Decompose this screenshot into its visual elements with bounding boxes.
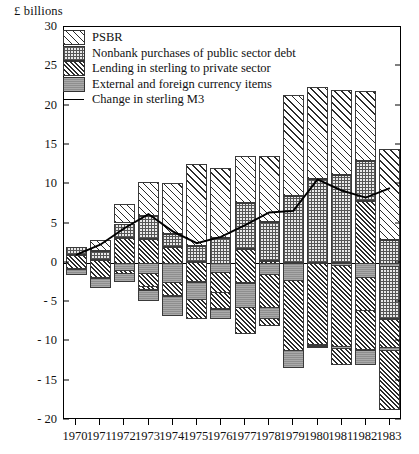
x-axis-tick-mark <box>268 419 269 425</box>
y-axis-tick-label: 25 <box>45 58 58 73</box>
x-axis-tick-mark <box>317 419 318 425</box>
y-axis-tick-mark <box>63 261 69 262</box>
y-axis-tick-mark-right <box>395 183 401 184</box>
x-axis-tick-mark <box>172 419 173 425</box>
x-axis-tick-mark <box>244 419 245 425</box>
y-axis-tick-mark <box>63 301 69 302</box>
x-axis-tick-mark <box>292 419 293 425</box>
y-axis-labels: 302520151050- 5- 10- 15- 20 <box>0 0 57 454</box>
y-axis-tick-mark-right <box>395 419 401 420</box>
x-axis-tick-label: 1983 <box>376 429 401 444</box>
legend-item-label: Lending in sterling to private sector <box>92 61 271 76</box>
legend-item-label: PSBR <box>92 30 123 45</box>
x-axis-tick-label: 1982 <box>352 429 377 444</box>
y-axis-tick-mark-right <box>395 301 401 302</box>
y-axis-tick-label: - 5 <box>43 294 57 309</box>
y-axis-tick-label: - 20 <box>37 412 57 427</box>
y-axis-tick-label: 0 <box>51 254 57 269</box>
x-axis-tick-mark <box>75 419 76 425</box>
x-axis-tick-label: 1979 <box>280 429 305 444</box>
y-axis-tick-label: - 10 <box>37 333 57 348</box>
x-axis-tick-mark <box>123 419 124 425</box>
x-axis-tick-label: 1978 <box>256 429 281 444</box>
y-axis-tick-label: 5 <box>51 215 57 230</box>
legend-item-label: External and foreign currency items <box>92 77 272 92</box>
y-axis-tick-label: - 15 <box>37 372 57 387</box>
solid-grey-swatch <box>63 77 85 92</box>
hatch-sparse-swatch <box>63 30 85 45</box>
legend-item-label: Nonbank purchases of public sector debt <box>92 46 296 61</box>
x-axis-tick-label: 1973 <box>135 429 160 444</box>
hatch-dense-swatch <box>63 61 85 76</box>
x-axis-tick-label: 1980 <box>304 429 329 444</box>
checker-swatch <box>63 46 85 61</box>
y-axis-tick-mark <box>63 183 69 184</box>
legend-item: Change in sterling M3 <box>63 92 363 108</box>
y-axis-tick-mark-right <box>395 104 401 105</box>
y-axis-tick-label: 30 <box>45 19 58 34</box>
legend-item: Lending in sterling to private sector <box>63 61 363 77</box>
legend-item: PSBR <box>63 30 363 46</box>
x-axis-tick-mark <box>99 419 100 425</box>
y-axis-tick-mark <box>63 143 69 144</box>
y-axis-tick-mark <box>63 222 69 223</box>
legend: PSBRNonbank purchases of public sector d… <box>63 30 363 108</box>
y-axis-tick-mark-right <box>395 379 401 380</box>
y-axis-tick-mark-right <box>395 143 401 144</box>
x-axis-tick-label: 1975 <box>183 429 208 444</box>
y-axis-tick-label: 15 <box>45 136 58 151</box>
x-axis-tick-label: 1976 <box>207 429 232 444</box>
y-axis-tick-label: 20 <box>45 97 58 112</box>
x-axis-tick-label: 1974 <box>159 429 184 444</box>
y-axis-tick-mark-right <box>395 261 401 262</box>
y-axis-tick-mark-right <box>395 222 401 223</box>
legend-item-label: Change in sterling M3 <box>92 92 204 107</box>
x-axis-tick-label: 1970 <box>63 429 88 444</box>
legend-item: External and foreign currency items <box>63 77 363 93</box>
m3-change-line <box>76 179 390 254</box>
chart-container: £ billions 302520151050- 5- 10- 15- 20 1… <box>0 0 419 454</box>
x-axis-tick-mark <box>389 419 390 425</box>
x-axis-tick-mark <box>220 419 221 425</box>
y-axis-tick-label: 10 <box>45 176 58 191</box>
y-axis-tick-mark <box>63 379 69 380</box>
line-swatch <box>63 99 85 100</box>
x-axis-tick-label: 1977 <box>232 429 257 444</box>
legend-item: Nonbank purchases of public sector debt <box>63 46 363 62</box>
x-axis-tick-label: 1972 <box>111 429 136 444</box>
x-axis-tick-mark <box>341 419 342 425</box>
x-axis-tick-mark <box>148 419 149 425</box>
x-axis-tick-mark <box>196 419 197 425</box>
y-axis-tick-mark-right <box>395 340 401 341</box>
x-axis-tick-label: 1981 <box>328 429 353 444</box>
y-axis-tick-mark <box>63 340 69 341</box>
y-axis-tick-mark <box>63 419 69 420</box>
y-axis-tick-mark-right <box>395 65 401 66</box>
x-axis-tick-label: 1971 <box>87 429 112 444</box>
x-axis-tick-mark <box>365 419 366 425</box>
